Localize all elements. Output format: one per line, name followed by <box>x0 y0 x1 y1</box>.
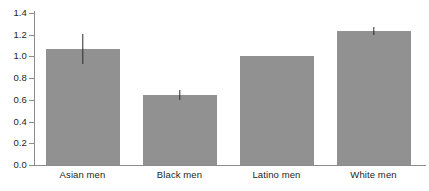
error-bar <box>179 90 180 101</box>
x-tick-label: Black men <box>131 170 228 180</box>
y-tick-label: 0.2 <box>1 138 27 148</box>
bar-chart: 0.00.20.40.60.81.01.21.4 Asian menBlack … <box>0 0 429 191</box>
y-tick-label: 1.0 <box>1 51 27 61</box>
y-tick-label: 1.2 <box>1 30 27 40</box>
x-tick-label: Asian men <box>34 170 131 180</box>
y-tick-label: 0.8 <box>1 73 27 83</box>
error-bar <box>82 34 83 64</box>
bar <box>240 56 314 165</box>
error-bar <box>373 27 374 36</box>
bar <box>143 95 217 165</box>
y-tick-label: 0.0 <box>1 160 27 170</box>
x-tick-label: Latino men <box>228 170 325 180</box>
plot-area <box>34 13 422 165</box>
y-tick-label: 0.4 <box>1 117 27 127</box>
bar <box>46 49 120 165</box>
y-tick-label: 1.4 <box>1 8 27 18</box>
bar <box>337 31 411 165</box>
y-tick-label: 0.6 <box>1 95 27 105</box>
x-tick-label: White men <box>325 170 422 180</box>
x-axis-line <box>34 165 426 166</box>
